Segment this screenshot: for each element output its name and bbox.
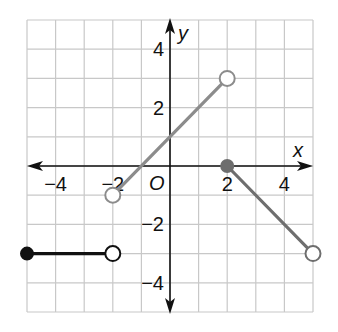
axes <box>27 18 313 314</box>
x-tick-label: 2 <box>222 173 233 195</box>
open-endpoint-icon <box>306 246 321 261</box>
y-tick-label: −4 <box>141 272 164 294</box>
segment-3-line <box>227 166 313 254</box>
y-tick-label: −2 <box>141 213 164 235</box>
origin-label: O <box>149 172 165 194</box>
x-tick-label: 4 <box>279 173 290 195</box>
open-endpoint-icon <box>105 246 120 261</box>
x-axis-label: x <box>292 139 304 161</box>
closed-endpoint-icon <box>221 160 233 172</box>
piecewise-function-graph: xyO−4−22442−2−4 <box>0 0 338 332</box>
open-endpoint-icon <box>105 188 120 203</box>
y-axis-label: y <box>176 22 189 44</box>
y-tick-label: 2 <box>153 97 164 119</box>
y-tick-label: 4 <box>153 38 164 60</box>
x-tick-label: −4 <box>44 173 67 195</box>
closed-endpoint-icon <box>21 248 33 260</box>
open-endpoint-icon <box>220 71 235 86</box>
